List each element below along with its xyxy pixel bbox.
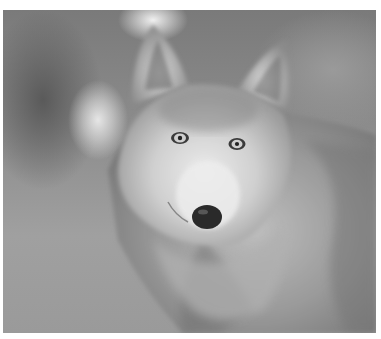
wolf-photo	[3, 10, 376, 333]
nose	[192, 205, 222, 229]
right-eye	[229, 138, 246, 150]
left-eye	[171, 132, 189, 144]
wolf-illustration	[3, 10, 376, 333]
